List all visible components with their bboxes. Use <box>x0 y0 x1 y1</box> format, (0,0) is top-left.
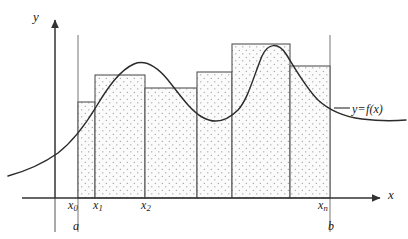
curve-equation-label: y=f(x) <box>352 103 383 115</box>
partition-label-x2: x2 <box>141 199 151 213</box>
x-axis-label: x <box>388 188 394 201</box>
interval-start-label-a: a <box>73 220 79 232</box>
curve-equation-rhs: f(x) <box>366 102 383 116</box>
partition-label-x1: x1 <box>93 199 103 213</box>
partition-label-x2-sub: 2 <box>147 203 151 213</box>
partition-label-x1-base: x <box>93 198 98 212</box>
riemann-sum-figure: y x x0 x1 x2 xn a b y=f(x) <box>0 0 408 239</box>
riemann-rect <box>145 88 197 198</box>
partition-label-x2-base: x <box>141 198 146 212</box>
interval-end-label-b: b <box>328 220 334 232</box>
riemann-rect <box>95 75 145 198</box>
partition-label-xn-base: x <box>318 198 323 212</box>
curve-equation-lhs: y <box>352 102 357 116</box>
curve-equation-equals: = <box>358 102 365 116</box>
partition-label-x0: x0 <box>68 199 78 213</box>
riemann-rect <box>232 44 290 198</box>
partition-label-xn: xn <box>318 199 328 213</box>
riemann-rectangles <box>78 44 330 198</box>
riemann-rect <box>78 102 95 198</box>
partition-label-x1-sub: 1 <box>99 203 103 213</box>
riemann-rect <box>290 66 330 198</box>
partition-label-x0-sub: 0 <box>74 203 78 213</box>
partition-label-xn-sub: n <box>324 203 328 213</box>
figure-canvas <box>0 0 408 239</box>
y-axis-label: y <box>33 10 39 23</box>
riemann-rect <box>197 72 232 198</box>
partition-label-x0-base: x <box>68 198 73 212</box>
